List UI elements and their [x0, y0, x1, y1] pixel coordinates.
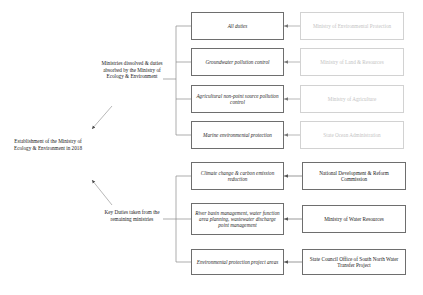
duty-box-all-duties-label: All duties	[195, 23, 280, 29]
bracket-lower	[163, 176, 191, 262]
ministry-box-south-north-water-label: State Council Office of South North Wate…	[306, 256, 402, 268]
ministry-box-ndrc[interactable]: National Development & Reform Commission	[302, 162, 406, 190]
duty-box-agricultural-label: Agricultural non-point source pollution …	[195, 93, 280, 105]
duty-box-all-duties[interactable]: All duties	[191, 12, 284, 40]
duty-box-groundwater[interactable]: Groundwater pollution control	[191, 48, 284, 76]
branch-label-key-duties: Key Duties taken from the remaining mini…	[98, 209, 166, 222]
duty-box-protection-areas[interactable]: Environmental protection project areas	[191, 249, 284, 275]
branch-label-dissolved: Ministries dissolved & duties absorbed b…	[98, 60, 166, 80]
arrows-root	[92, 106, 112, 205]
duty-box-protection-areas-label: Environmental protection project areas	[195, 259, 280, 265]
ministry-box-water-resources-label: Ministry of Water Resources	[306, 216, 402, 222]
duty-box-river-basin-label: River basin management, water function a…	[195, 210, 280, 228]
duty-box-climate-change-label: Climate change & carbon emission reducti…	[195, 170, 280, 182]
duty-box-marine[interactable]: Marine environmental protection	[191, 121, 284, 149]
org-diagram: Establishment of the Ministry of Ecology…	[0, 0, 423, 295]
arrows-lower	[284, 176, 302, 262]
duty-box-marine-label: Marine environmental protection	[195, 132, 280, 138]
root-label: Establishment of the Ministry of Ecology…	[6, 138, 90, 151]
ministry-box-ndrc-label: National Development & Reform Commission	[306, 170, 402, 182]
ministry-box-state-ocean[interactable]: State Ocean Administration	[300, 121, 404, 149]
ministry-box-agriculture[interactable]: Ministry of Agriculture	[300, 85, 404, 113]
ministry-box-water-resources[interactable]: Ministry of Water Resources	[302, 205, 406, 233]
ministry-box-environmental-protection[interactable]: Ministry of Environmental Protection	[300, 12, 404, 40]
ministry-box-state-ocean-label: State Ocean Administration	[304, 132, 400, 138]
bracket-upper	[163, 26, 191, 135]
ministry-box-south-north-water[interactable]: State Council Office of South North Wate…	[302, 249, 406, 275]
arrows-upper	[284, 26, 300, 135]
duty-box-groundwater-label: Groundwater pollution control	[195, 59, 280, 65]
duty-box-agricultural[interactable]: Agricultural non-point source pollution …	[191, 85, 284, 113]
ministry-box-land-resources-label: Ministry of Land & Resources	[304, 59, 400, 65]
ministry-box-land-resources[interactable]: Ministry of Land & Resources	[300, 48, 404, 76]
ministry-box-environmental-protection-label: Ministry of Environmental Protection	[304, 23, 400, 29]
duty-box-climate-change[interactable]: Climate change & carbon emission reducti…	[191, 162, 284, 190]
duty-box-river-basin[interactable]: River basin management, water function a…	[191, 203, 284, 235]
ministry-box-agriculture-label: Ministry of Agriculture	[304, 96, 400, 102]
